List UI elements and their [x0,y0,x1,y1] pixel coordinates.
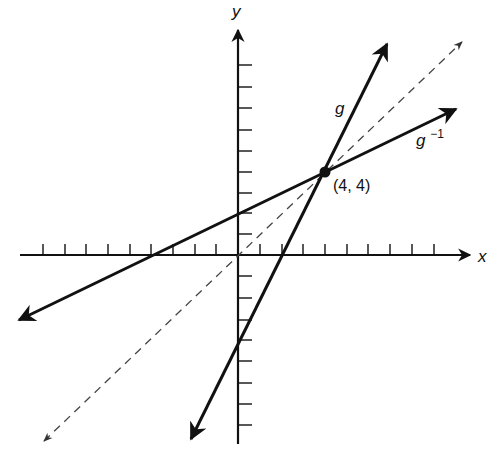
function-g-label: g [335,99,345,118]
inverse-function-label: g −1 [416,127,444,150]
x-axis: x [20,244,487,266]
inverse-label-superscript: −1 [430,127,444,141]
intersection-point-label: (4, 4) [333,177,370,194]
x-axis-label: x [477,247,487,266]
y-axis-label: y [231,2,242,21]
y-axis: y [231,2,252,444]
intersection-point-marker [320,167,331,178]
identity-line-dashed [44,42,462,441]
function-g-line [191,44,387,439]
inverse-label-base: g [416,131,426,150]
function-inverse-graph: x y [0,0,494,464]
